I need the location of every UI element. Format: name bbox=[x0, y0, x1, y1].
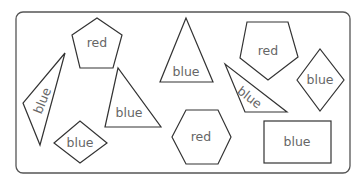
shape-label: blue bbox=[115, 105, 142, 120]
shape-label: blue bbox=[306, 72, 333, 87]
shapes-diagram: red blue blue blue blue red red blue blu… bbox=[0, 0, 360, 181]
rectangle-bottom-right: blue bbox=[264, 121, 331, 163]
shape-label: blue bbox=[66, 135, 93, 150]
shape-label: blue bbox=[172, 64, 199, 79]
shape-label: blue bbox=[283, 134, 310, 149]
shape-label: red bbox=[191, 129, 212, 144]
shape-label: red bbox=[258, 43, 279, 58]
shape-label: red bbox=[87, 35, 108, 50]
